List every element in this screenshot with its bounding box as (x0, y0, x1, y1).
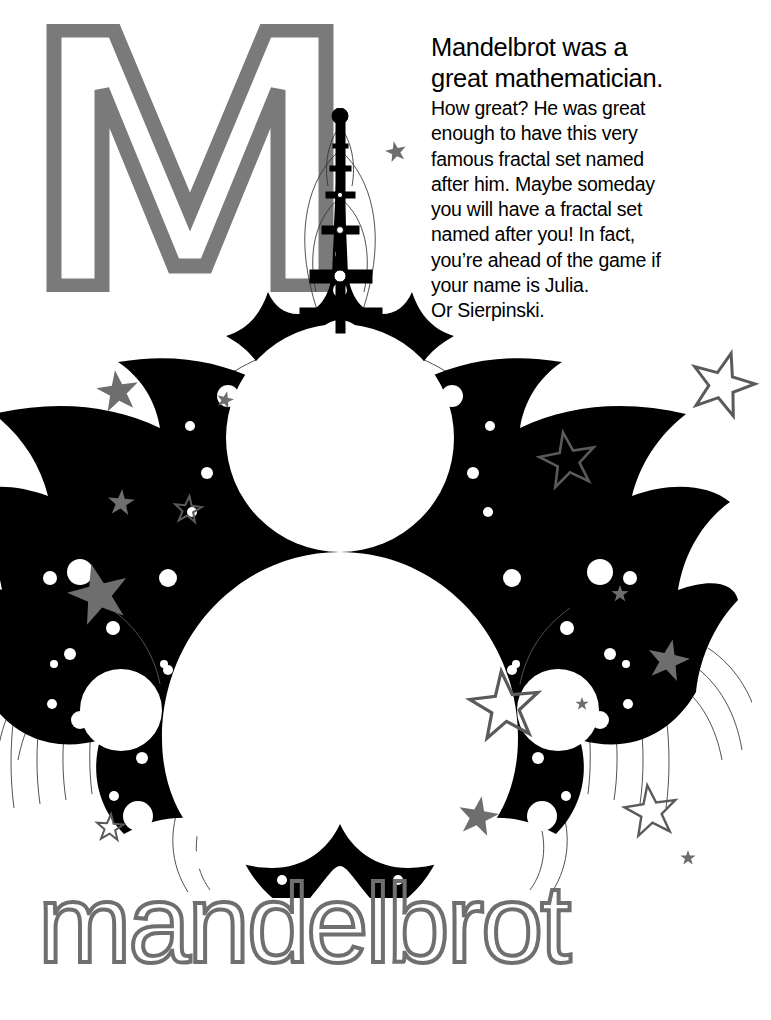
mandelbrot-fractal (0, 108, 752, 898)
page-root: Mandelbrot was agreat mathematician. How… (0, 0, 771, 1020)
wordmark-mandelbrot: mandelbrot (38, 878, 738, 982)
fractal-left-satellite (80, 669, 162, 751)
wordmark-text: mandelbrot (38, 878, 571, 982)
page-title: Mandelbrot was agreat mathematician. (431, 32, 751, 94)
fractal-body (0, 122, 738, 898)
fractal-right-satellite (517, 669, 599, 751)
fractal-antenna (300, 108, 382, 333)
